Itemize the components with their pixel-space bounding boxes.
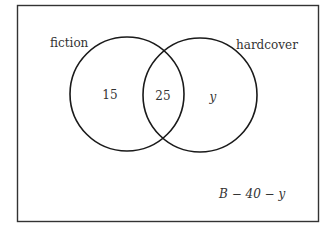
outside-value: B − 40 − y xyxy=(218,187,285,201)
fiction-label: fiction xyxy=(50,36,89,50)
hardcover-only-value: y xyxy=(209,90,217,104)
intersection-value: 25 xyxy=(155,89,170,103)
venn-diagram: fiction hardcover 15 25 y B − 40 − y xyxy=(0,0,333,230)
fiction-only-value: 15 xyxy=(102,88,117,102)
hardcover-label: hardcover xyxy=(236,38,298,52)
